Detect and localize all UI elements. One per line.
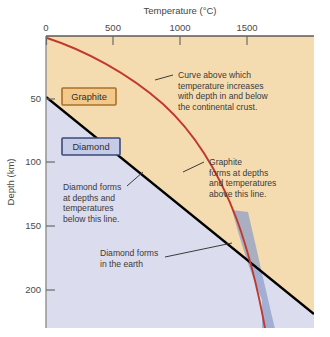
- y-tick-label-200: 200: [25, 284, 41, 295]
- graphite-chip-label: Graphite: [71, 92, 107, 102]
- x-tick-label-500: 500: [105, 22, 121, 33]
- y-axis-title: Depth (km): [5, 159, 16, 206]
- curve-note-line-4: the continental crust.: [178, 102, 257, 112]
- diamond-earth-note-line-1: Diamond forms: [100, 248, 158, 258]
- graphite-note-line-4: above this line.: [209, 189, 266, 199]
- x-tick-label-1500: 1500: [236, 22, 257, 33]
- diamond-note-line-1: Diamond forms: [63, 182, 121, 192]
- y-tick-label-100: 100: [25, 156, 41, 167]
- diamond-note-line-2: at depths and: [63, 193, 115, 203]
- y-tick-label-150: 150: [25, 220, 41, 231]
- graphite-chip: Graphite: [62, 88, 116, 105]
- diamond-chip: Diamond: [62, 138, 120, 155]
- phase-diagram-svg: Temperature (°C) Depth (km) 0 500 1000 1…: [0, 0, 330, 337]
- graphite-note-line-3: and temperatures: [209, 178, 276, 188]
- diamond-note-line-4: below this line.: [63, 214, 119, 224]
- x-tick-label-0: 0: [43, 22, 48, 33]
- graphite-note-line-2: forms at depths: [209, 168, 268, 178]
- curve-note-line-1: Curve above which: [178, 70, 251, 80]
- diamond-earth-note-line-2: in the earth: [100, 259, 143, 269]
- diagram-figure: Temperature (°C) Depth (km) 0 500 1000 1…: [0, 0, 330, 337]
- diamond-chip-label: Diamond: [72, 142, 109, 152]
- curve-note-line-3: with depth in and below: [177, 91, 269, 101]
- curve-note-line-2: temperature increases: [178, 81, 264, 91]
- graphite-note-line-1: Graphite: [209, 157, 242, 167]
- diamond-note-line-3: temperatures: [63, 203, 114, 213]
- diamond-note-annotation: Diamond forms at depths and temperatures…: [63, 182, 121, 224]
- x-tick-label-1000: 1000: [169, 22, 190, 33]
- y-tick-label-50: 50: [30, 93, 41, 104]
- x-axis-title: Temperature (°C): [144, 5, 217, 16]
